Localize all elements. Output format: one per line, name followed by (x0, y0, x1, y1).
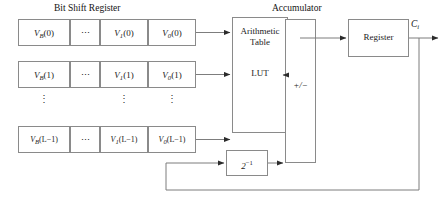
wire-feedback-path (166, 38, 419, 190)
block-diagram: Bit Shift Register Accumulator VB(0) ⋯ V… (0, 0, 444, 205)
connector-lines (0, 0, 444, 205)
